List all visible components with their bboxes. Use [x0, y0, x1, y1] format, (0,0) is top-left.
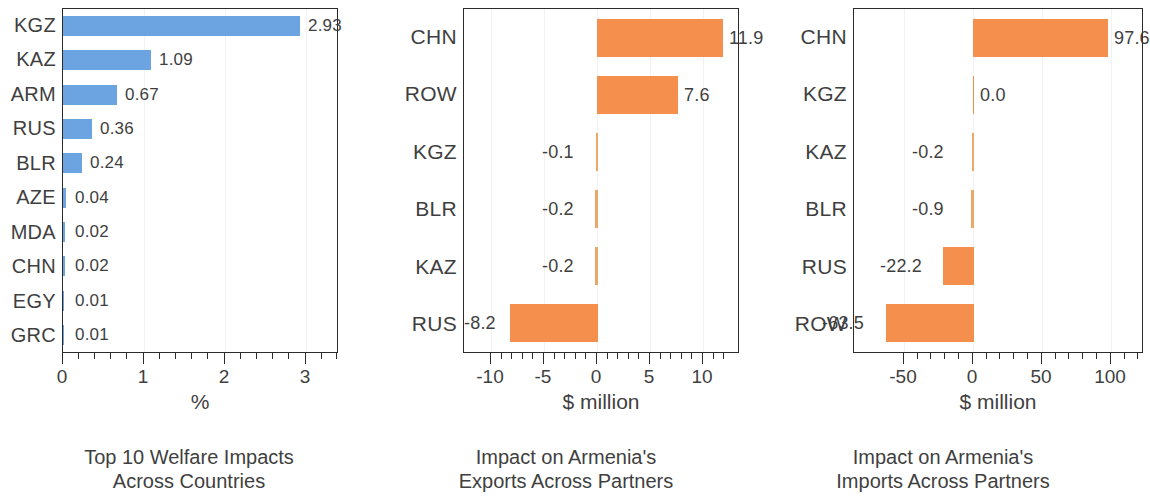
bar-row: 0.24 — [63, 146, 337, 180]
bar-row: -0.2 — [854, 123, 1142, 180]
x-tick-label: -5 — [535, 366, 552, 388]
category-label: KAZ — [0, 43, 56, 78]
category-label: CHN — [388, 8, 457, 66]
bar-row: 0.67 — [63, 78, 337, 112]
bar-value-label: -0.2 — [542, 199, 574, 220]
bar-value-label: 2.93 — [308, 16, 342, 36]
caption-line: Impact on Armenia's — [778, 445, 1108, 469]
bar — [510, 304, 598, 342]
bar-row: -8.2 — [464, 295, 738, 352]
x-tick-label: 100 — [1094, 366, 1126, 388]
bar-row: 0.04 — [63, 180, 337, 214]
category-label: KGZ — [0, 8, 56, 43]
caption-line: Imports Across Partners — [778, 469, 1108, 493]
bar-value-label: -22.2 — [880, 256, 922, 277]
caption-line: Top 10 Welfare Impacts — [24, 445, 354, 469]
x-axis-title-panel1: % — [62, 390, 338, 414]
x-tick-label: 0 — [967, 366, 978, 388]
category-label: KAZ — [388, 238, 457, 296]
bar-rows-panel1: 2.93 1.09 0.67 0.36 0.24 0.04 0.02 0.02 … — [63, 9, 337, 352]
x-axis-panel1: 0 1 2 3 — [62, 353, 338, 379]
bar-row: 7.6 — [464, 66, 738, 123]
bar-value-label: 0.36 — [100, 119, 134, 139]
bar-value-label: -0.1 — [542, 141, 574, 162]
category-axis-labels-panel1: KGZ KAZ ARM RUS BLR AZE MDA CHN EGY GRC — [0, 8, 56, 353]
plot-area-panel2: 11.9 7.6 -0.1 -0.2 -0.2 -8.2 — [463, 8, 739, 353]
bar-row: -63.5 — [854, 295, 1142, 352]
x-axis-title-panel3: $ million — [853, 390, 1143, 414]
bar-value-label: 0.67 — [125, 85, 159, 105]
category-label: RUS — [776, 238, 847, 296]
category-label: BLR — [388, 181, 457, 239]
bar-row: 0.02 — [63, 215, 337, 249]
bar-value-label: 0.01 — [75, 291, 109, 311]
category-label: CHN — [776, 8, 847, 66]
bar-rows-panel2: 11.9 7.6 -0.1 -0.2 -0.2 -8.2 — [464, 9, 738, 352]
bar — [63, 291, 64, 311]
bar — [943, 247, 974, 285]
bar-value-label: 1.09 — [159, 50, 193, 70]
x-tick-label: 50 — [1030, 366, 1051, 388]
bar — [595, 247, 598, 285]
panel-welfare-impacts: KGZ KAZ ARM RUS BLR AZE MDA CHN EGY GRC … — [0, 0, 380, 502]
category-label: EGY — [0, 284, 56, 319]
plot-area-panel1: 2.93 1.09 0.67 0.36 0.24 0.04 0.02 0.02 … — [62, 8, 338, 353]
category-label: ROW — [388, 66, 457, 124]
x-tick-label: 0 — [591, 366, 602, 388]
bar — [63, 16, 300, 36]
category-label: BLR — [776, 181, 847, 239]
bar — [597, 19, 723, 57]
bar-row: 0.0 — [854, 66, 1142, 123]
x-tick-label: -50 — [889, 366, 916, 388]
category-label: MDA — [0, 215, 56, 250]
bar-value-label: 0.01 — [75, 325, 109, 345]
bar — [595, 190, 598, 228]
x-tick-label: 1 — [138, 366, 149, 388]
bar-row: -0.2 — [464, 238, 738, 295]
x-tick-label: 5 — [644, 366, 655, 388]
bar-row: 0.01 — [63, 283, 337, 317]
bar-row: 1.09 — [63, 43, 337, 77]
bar — [597, 76, 678, 114]
bar — [63, 325, 64, 345]
bar-value-label: 0.0 — [980, 84, 1006, 105]
bar — [973, 76, 974, 114]
bar-value-label: 0.02 — [75, 256, 109, 276]
bar — [63, 256, 65, 276]
bar — [973, 19, 1108, 57]
caption-line: Exports Across Partners — [396, 469, 736, 493]
category-label: ARM — [0, 77, 56, 112]
category-label: CHN — [0, 250, 56, 285]
bar-row: -0.1 — [464, 123, 738, 180]
category-label: RUS — [388, 296, 457, 354]
bar-row: 11.9 — [464, 9, 738, 66]
bar — [63, 188, 66, 208]
bar — [63, 50, 151, 70]
bar-value-label: -0.2 — [542, 256, 574, 277]
bar-value-label: -8.2 — [464, 313, 496, 334]
bar-value-label: 0.04 — [75, 188, 109, 208]
bar-row: 0.01 — [63, 318, 337, 352]
x-axis-panel2: -10 -5 0 5 10 — [463, 353, 739, 379]
category-label: KGZ — [776, 66, 847, 124]
category-axis-labels-panel3: CHN KGZ KAZ BLR RUS ROW — [776, 8, 847, 353]
bar — [63, 85, 117, 105]
bar — [971, 190, 974, 228]
bar-value-label: -63.5 — [822, 313, 864, 334]
plot-area-panel3: 97.6 0.0 -0.2 -0.9 -22.2 -63.5 — [853, 8, 1143, 353]
category-label: AZE — [0, 181, 56, 216]
x-tick-label: 10 — [691, 366, 712, 388]
caption-line: Across Countries — [24, 469, 354, 493]
bar-row: 97.6 — [854, 9, 1142, 66]
bar — [886, 304, 974, 342]
caption-panel2: Impact on Armenia's Exports Across Partn… — [396, 445, 736, 494]
caption-panel1: Top 10 Welfare Impacts Across Countries — [24, 445, 354, 494]
category-label: BLR — [0, 146, 56, 181]
bar-row: 0.36 — [63, 112, 337, 146]
bar-value-label: -0.9 — [912, 199, 944, 220]
bar-row: -0.2 — [464, 181, 738, 238]
bar-value-label: -0.2 — [912, 141, 944, 162]
bar — [63, 153, 82, 173]
caption-panel3: Impact on Armenia's Imports Across Partn… — [778, 445, 1108, 494]
